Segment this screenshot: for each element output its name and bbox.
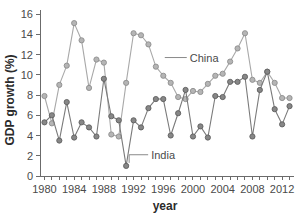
x-tick-label: 2012	[270, 183, 294, 195]
data-point: India 1990: 5.5%	[116, 118, 121, 123]
data-point: India 2012: 5.1%	[280, 122, 285, 127]
data-point: China 1989: 4.1%	[109, 132, 114, 137]
data-point: India 1997: 4%	[168, 133, 173, 138]
data-point: China 1988: 11.2%	[101, 60, 106, 65]
y-axis-title: GDP growth (%)	[3, 54, 17, 145]
data-point: India 1992: 5.5%	[131, 118, 136, 123]
data-point: India 2009: 8.5%	[257, 87, 262, 92]
data-point: China 2007: 14.1%	[242, 31, 247, 36]
data-point: India 2002: 3.8%	[205, 135, 210, 140]
data-point: China 2000: 8.4%	[190, 88, 195, 93]
data-point: China 2005: 11.3%	[228, 59, 233, 64]
data-point: India 1994: 6.7%	[146, 106, 151, 111]
y-tick-label: 12	[21, 49, 33, 61]
data-point: China 2008: 9.5%	[250, 77, 255, 82]
data-point: China 1994: 13%	[146, 42, 151, 47]
data-point: India 1987: 3.9%	[94, 134, 99, 139]
data-point: India 1983: 7.3%	[64, 99, 69, 104]
y-tick-label: 16	[21, 8, 33, 20]
data-point: India 2008: 3.9%	[250, 134, 255, 139]
data-point: China 1985: 13.4%	[79, 38, 84, 43]
data-point: China 1980: 7.9%	[42, 93, 47, 98]
data-point: India 2010: 10.3%	[265, 69, 270, 74]
x-tick-label: 1980	[32, 183, 56, 195]
gdp-growth-line-chart: 0246810121416 19801984198819921996200020…	[0, 0, 303, 216]
y-tick-label: 10	[21, 69, 33, 81]
x-tick-label: 1996	[151, 183, 175, 195]
data-point: India 1981: 6%	[49, 113, 54, 118]
data-point: India 1996: 7.6%	[161, 96, 166, 101]
data-point: China 2003: 9.9%	[213, 73, 218, 78]
data-point: China 1984: 15.1%	[72, 21, 77, 26]
data-point: China 2001: 8.3%	[198, 89, 203, 94]
data-point: India 1984: 3.8%	[72, 135, 77, 140]
data-point: China 1995: 10.8%	[153, 64, 158, 69]
y-tick-label: 0	[27, 170, 33, 182]
data-point: India 1988: 9.6%	[101, 76, 106, 81]
x-tick-label: 1988	[92, 183, 116, 195]
india-series-label: India	[151, 149, 176, 161]
x-tick-label: 1992	[121, 183, 145, 195]
y-tick-label: 6	[27, 109, 33, 121]
data-point: India 2004: 7.8%	[220, 94, 225, 99]
data-point: China 2012: 7.7%	[280, 95, 285, 100]
x-axis-title: year	[153, 199, 178, 213]
data-point: India 2006: 9.3%	[235, 79, 240, 84]
data-point: China 2011: 9.2%	[272, 80, 277, 85]
data-point: China 1998: 7.8%	[176, 94, 181, 99]
data-point: India 2000: 3.9%	[190, 134, 195, 139]
data-point: India 2013: 6.9%	[287, 104, 292, 109]
data-point: China 2002: 9.1%	[205, 81, 210, 86]
data-point: China 1986: 8.7%	[86, 85, 91, 90]
data-point: India 1982: 3.5%	[57, 138, 62, 143]
data-point: India 1998: 6.2%	[176, 111, 181, 116]
y-tick-label: 2	[27, 150, 33, 162]
y-tick-label: 14	[21, 28, 33, 40]
data-point: India 2001: 4.9%	[198, 124, 203, 129]
data-point: India 1991: 1%	[124, 163, 129, 168]
data-point: China 1991: 9.2%	[124, 80, 129, 85]
data-point: China 1993: 13.9%	[138, 33, 143, 38]
data-point: India 1999: 8.5%	[183, 87, 188, 92]
data-point: China 1996: 9.9%	[161, 73, 166, 78]
y-tick-label: 8	[27, 89, 33, 101]
data-point: India 1985: 5.3%	[79, 120, 84, 125]
data-point: India 1980: 5.3%	[42, 120, 47, 125]
data-point: China 1982: 9%	[57, 82, 62, 87]
data-point: China 2013: 7.7%	[287, 95, 292, 100]
data-point: China 1992: 14.1%	[131, 31, 136, 36]
data-point: India 2007: 9.8%	[242, 74, 247, 79]
data-point: China 1997: 9.2%	[168, 80, 173, 85]
data-point: India 2011: 6.6%	[272, 107, 277, 112]
data-point: India 2005: 9.3%	[228, 79, 233, 84]
data-point: China 2006: 12.6%	[235, 46, 240, 51]
data-point: India 1989: 5.9%	[109, 114, 114, 119]
x-tick-label: 1984	[62, 183, 86, 195]
data-point: India 1993: 4.8%	[138, 125, 143, 130]
data-point: India 1995: 7.6%	[153, 96, 158, 101]
data-point: China 1987: 11.5%	[94, 57, 99, 62]
chart-figure: 0246810121416 19801984198819921996200020…	[0, 0, 303, 216]
y-tick-label: 4	[27, 130, 33, 142]
x-tick-label: 2000	[181, 183, 205, 195]
data-point: India 2003: 7.9%	[213, 93, 218, 98]
data-point: China 2004: 10.1%	[220, 71, 225, 76]
data-point: India 1986: 4.8%	[86, 125, 91, 130]
data-point: China 1983: 10.9%	[64, 63, 69, 68]
x-tick-label: 2004	[210, 183, 234, 195]
x-tick-label: 2008	[240, 183, 264, 195]
china-series-label: China	[190, 52, 220, 64]
